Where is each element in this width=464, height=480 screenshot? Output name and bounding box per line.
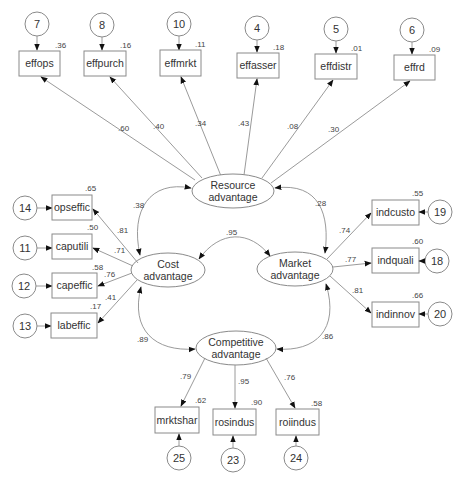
r2-capeffic: .58: [92, 263, 104, 272]
svg-text:24: 24: [290, 452, 302, 464]
r2-mrktshar: .62: [195, 396, 207, 405]
r2-roiindus: .58: [311, 399, 323, 408]
error-term-23: 23: [221, 448, 245, 472]
svg-text:18: 18: [431, 255, 443, 267]
indicator-effrd: effrd: [394, 55, 435, 80]
error-term-24: 24: [284, 446, 308, 470]
corr-cost-market: .95: [226, 228, 238, 237]
error-term-20: 20: [428, 302, 452, 326]
error-term-14: 14: [13, 196, 37, 220]
svg-text:Competitive: Competitive: [208, 336, 264, 348]
r2-effmrkt: .11: [195, 40, 206, 49]
loading-indcusto: .74: [339, 226, 351, 235]
r2-indcusto: .55: [412, 189, 424, 198]
r2-indinnov: .66: [412, 291, 424, 300]
corr-resource-cost: .38: [133, 201, 145, 210]
svg-text:advantage: advantage: [143, 270, 192, 282]
loading-capeffic: .76: [104, 270, 116, 279]
indicator-labeffic: labeffic: [51, 313, 97, 338]
indicator-mrktshar: mrktshar: [155, 407, 199, 433]
svg-text:13: 13: [19, 320, 31, 332]
error-term-19: 19: [428, 200, 452, 224]
svg-text:advantage: advantage: [211, 348, 260, 360]
svg-text:mrktshar: mrktshar: [157, 414, 198, 426]
svg-text:caputili: caputili: [56, 240, 89, 252]
r2-effpurch: .16: [120, 41, 132, 50]
svg-text:5: 5: [333, 23, 339, 35]
svg-text:25: 25: [173, 452, 185, 464]
error-term-25: 25: [167, 446, 191, 470]
latent-resource-advantage: Resource advantage: [192, 174, 274, 208]
loading-mrktshar: .79: [180, 372, 192, 381]
indicator-roiindus: roiindus: [276, 409, 319, 435]
svg-text:7: 7: [34, 18, 40, 30]
error-term-7: 7: [25, 12, 49, 36]
svg-text:8: 8: [99, 19, 105, 31]
indicator-caputili: caputili: [52, 234, 92, 259]
indicator-effpurch: effpurch: [84, 51, 126, 76]
indicator-indcusto: indcusto: [372, 200, 419, 225]
loading-indquali: .77: [345, 255, 357, 264]
svg-text:indcusto: indcusto: [376, 206, 415, 218]
svg-text:capeffic: capeffic: [57, 279, 93, 291]
loading-roiindus: .76: [284, 373, 296, 382]
error-term-10: 10: [167, 12, 191, 36]
svg-text:effmrkt: effmrkt: [165, 57, 197, 69]
latent-market-advantage: Market advantage: [257, 252, 333, 286]
svg-text:labeffic: labeffic: [57, 319, 90, 331]
svg-text:Market: Market: [279, 257, 311, 269]
indicator-indquali: indquali: [372, 248, 419, 273]
svg-text:20: 20: [434, 308, 446, 320]
loading-labeffic: .41: [105, 293, 117, 302]
svg-text:effops: effops: [25, 57, 53, 69]
r2-effops: .36: [55, 41, 67, 50]
indicator-effdistr: effdistr: [315, 54, 357, 79]
svg-text:indinnov: indinnov: [376, 308, 416, 320]
loading-effmrkt: .34: [195, 119, 207, 128]
svg-text:effasser: effasser: [239, 59, 277, 71]
indicator-effasser: effasser: [237, 53, 279, 78]
loading-effdistr: .08: [287, 122, 299, 131]
svg-text:advantage: advantage: [208, 191, 257, 203]
loading-effrd: .30: [328, 125, 340, 134]
loading-indinnov: .81: [352, 286, 364, 295]
error-term-8: 8: [90, 13, 114, 37]
error-term-11: 11: [13, 236, 37, 260]
corr-market-competitive: .86: [322, 332, 334, 341]
svg-text:effrd: effrd: [404, 61, 425, 73]
loading-rosindus: .95: [238, 377, 250, 386]
svg-text:roiindus: roiindus: [279, 416, 316, 428]
r2-rosindus: .90: [251, 398, 263, 407]
r2-caputili: .50: [87, 223, 99, 232]
error-term-6: 6: [400, 18, 424, 42]
svg-text:Resource: Resource: [211, 179, 256, 191]
svg-text:Cost: Cost: [157, 258, 179, 270]
r2-indquali: .60: [412, 237, 424, 246]
svg-text:indquali: indquali: [377, 254, 413, 266]
svg-text:11: 11: [19, 242, 30, 254]
latent-competitive-advantage: Competitive advantage: [196, 331, 276, 365]
svg-text:23: 23: [227, 454, 239, 466]
r2-effasser: .18: [273, 43, 285, 52]
svg-text:advantage: advantage: [270, 269, 319, 281]
error-term-4: 4: [245, 16, 269, 40]
indicator-opseffic: opseffic: [52, 195, 92, 220]
latent-cost-advantage: Cost advantage: [131, 253, 205, 287]
error-term-13: 13: [13, 314, 37, 338]
r2-labeffic: .17: [90, 302, 102, 311]
svg-text:4: 4: [254, 22, 260, 34]
error-term-5: 5: [324, 17, 348, 41]
svg-text:19: 19: [434, 206, 446, 218]
loading-opseffic: .81: [117, 226, 129, 235]
indicator-indinnov: indinnov: [372, 302, 419, 327]
r2-effdistr: .01: [351, 44, 363, 53]
svg-text:effpurch: effpurch: [86, 57, 124, 69]
r2-opseffic: .65: [85, 184, 97, 193]
error-term-12: 12: [12, 274, 36, 298]
r2-effrd: .09: [429, 45, 441, 54]
indicator-rosindus: rosindus: [213, 409, 256, 435]
svg-text:14: 14: [19, 202, 31, 214]
svg-text:effdistr: effdistr: [320, 60, 352, 72]
loading-effpurch: .40: [153, 122, 165, 131]
loading-effops: .60: [118, 124, 130, 133]
